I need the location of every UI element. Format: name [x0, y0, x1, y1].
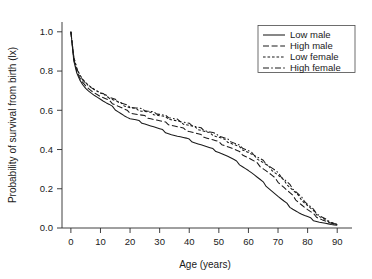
x-tick-label: 50: [214, 236, 225, 247]
x-tick-label: 60: [243, 236, 254, 247]
x-tick-label: 10: [95, 236, 106, 247]
legend-label: Low female: [290, 51, 339, 62]
y-tick-label: 0.0: [40, 222, 53, 233]
legend-label: High male: [290, 40, 333, 51]
legend: Low maleHigh maleLow femaleHigh female: [258, 26, 355, 74]
legend-item-low-male[interactable]: Low male: [263, 29, 331, 40]
legend-label: High female: [290, 62, 341, 73]
y-tick-label: 0.6: [40, 105, 53, 116]
y-tick-label: 1.0: [40, 26, 53, 37]
x-tick-label: 70: [273, 236, 284, 247]
legend-item-high-male[interactable]: High male: [263, 40, 333, 51]
x-axis-title: Age (years): [179, 259, 231, 270]
x-tick-label: 30: [154, 236, 165, 247]
y-tick-labels: 0.00.20.40.60.81.0: [40, 26, 53, 233]
x-tick-marks: [71, 228, 337, 233]
x-tick-label: 80: [302, 236, 313, 247]
survival-curve-chart: 0.00.20.40.60.81.0 Probability of surviv…: [0, 0, 372, 279]
legend-items: Low maleHigh maleLow femaleHigh female: [263, 29, 341, 73]
x-tick-labels: 0102030405060708090: [68, 236, 342, 247]
y-tick-marks: [57, 32, 62, 228]
x-tick-label: 40: [184, 236, 195, 247]
y-tick-label: 0.2: [40, 183, 53, 194]
y-tick-label: 0.4: [40, 144, 53, 155]
y-axis-title: Probability of survival from birth (lx): [7, 47, 18, 203]
y-tick-label: 0.8: [40, 65, 53, 76]
legend-label: Low male: [290, 29, 331, 40]
x-tick-label: 20: [125, 236, 136, 247]
legend-item-low-female[interactable]: Low female: [263, 51, 339, 62]
x-tick-label: 90: [332, 236, 343, 247]
x-tick-label: 0: [68, 236, 73, 247]
legend-item-high-female[interactable]: High female: [263, 62, 341, 73]
chart-canvas: 0.00.20.40.60.81.0 Probability of surviv…: [0, 0, 372, 279]
y-axis-group: 0.00.20.40.60.81.0 Probability of surviv…: [7, 22, 62, 233]
x-axis-group: 0102030405060708090 Age (years): [62, 228, 352, 270]
